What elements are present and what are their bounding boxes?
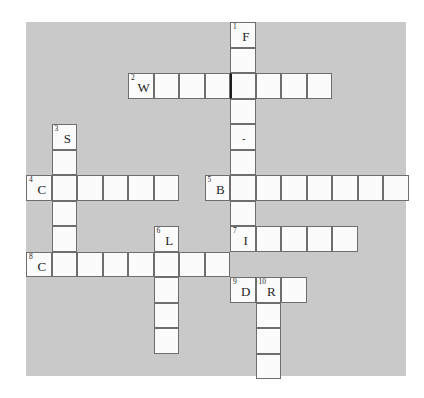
crossword-cell[interactable]	[154, 328, 180, 354]
cell-letter: D	[231, 278, 256, 303]
crossword-cell[interactable]	[205, 252, 231, 278]
crossword-cell[interactable]	[52, 226, 78, 252]
crossword-cell[interactable]	[332, 175, 358, 201]
cell-letter: S	[53, 125, 78, 150]
cell-letter: C	[27, 253, 52, 278]
cell-letter: F	[231, 23, 256, 48]
crossword-cell[interactable]	[154, 73, 180, 99]
cell-letter: B	[206, 176, 231, 201]
crossword-cell[interactable]: 9D	[230, 277, 256, 303]
crossword-cell[interactable]	[230, 201, 256, 227]
cell-letter: W	[129, 74, 154, 99]
crossword-cell[interactable]: 3S	[52, 124, 78, 150]
crossword-cell[interactable]: 7I	[230, 226, 256, 252]
crossword-cell[interactable]	[154, 303, 180, 329]
crossword-cell[interactable]	[332, 226, 358, 252]
crossword-cell[interactable]: 6L	[154, 226, 180, 252]
crossword-cell[interactable]	[383, 175, 409, 201]
cell-letter: C	[27, 176, 52, 201]
crossword-cell[interactable]	[52, 201, 78, 227]
crossword-cell[interactable]	[307, 226, 333, 252]
crossword-cell[interactable]: 5B	[205, 175, 231, 201]
crossword-cell[interactable]	[281, 226, 307, 252]
crossword-cell[interactable]	[103, 252, 129, 278]
cell-letter: R	[257, 278, 282, 303]
crossword-cell[interactable]	[230, 99, 256, 125]
crossword-cell[interactable]	[230, 175, 256, 201]
crossword-cell[interactable]: 1F	[230, 22, 256, 48]
crossword-cell[interactable]	[128, 175, 154, 201]
crossword-cell[interactable]	[256, 328, 282, 354]
crossword-cell[interactable]	[281, 175, 307, 201]
cell-letter: L	[155, 227, 180, 252]
cell-letter: -	[231, 125, 256, 150]
crossword-cell[interactable]	[179, 73, 205, 99]
crossword-cell[interactable]	[307, 175, 333, 201]
crossword-cell[interactable]: 10R	[256, 277, 282, 303]
crossword-cell[interactable]	[52, 150, 78, 176]
crossword-cell[interactable]	[256, 226, 282, 252]
crossword-cell[interactable]	[52, 252, 78, 278]
crossword-cell[interactable]	[52, 175, 78, 201]
crossword-cell[interactable]	[358, 175, 384, 201]
crossword-cell[interactable]	[256, 175, 282, 201]
crossword-cell[interactable]: 4C	[26, 175, 52, 201]
crossword-cell[interactable]: 8C	[26, 252, 52, 278]
crossword-cell[interactable]	[281, 73, 307, 99]
crossword-cell[interactable]	[154, 175, 180, 201]
crossword-cell[interactable]: -	[230, 124, 256, 150]
crossword-cell[interactable]	[128, 252, 154, 278]
crossword-cell[interactable]	[230, 150, 256, 176]
crossword-cell[interactable]	[103, 175, 129, 201]
crossword-cell[interactable]	[205, 73, 231, 99]
cell-letter: I	[231, 227, 256, 252]
crossword-cell[interactable]	[307, 73, 333, 99]
crossword-cell[interactable]	[77, 175, 103, 201]
crossword-grid[interactable]: 1F2W3S-4C5B6L7I8C9D10R	[0, 0, 424, 398]
crossword-cell[interactable]	[230, 73, 256, 99]
crossword-puzzle: 1F2W3S-4C5B6L7I8C9D10R	[0, 0, 424, 398]
crossword-cell[interactable]	[230, 48, 256, 74]
crossword-cell[interactable]	[256, 354, 282, 380]
crossword-cell[interactable]	[256, 303, 282, 329]
crossword-cell[interactable]	[154, 277, 180, 303]
crossword-cell[interactable]	[256, 73, 282, 99]
crossword-cell[interactable]	[154, 252, 180, 278]
crossword-cell[interactable]	[179, 252, 205, 278]
crossword-cell[interactable]	[77, 252, 103, 278]
crossword-cell[interactable]: 2W	[128, 73, 154, 99]
crossword-cell[interactable]	[281, 277, 307, 303]
